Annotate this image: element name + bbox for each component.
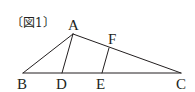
geometry-figure: 〔図1〕 A F B D E C: [0, 0, 195, 92]
figure-caption: 〔図1〕: [11, 13, 55, 30]
label-C: C: [176, 76, 186, 92]
segment-AB: [23, 34, 73, 73]
segment-EF: [102, 48, 109, 73]
segment-AC: [73, 34, 181, 73]
label-A: A: [68, 17, 79, 33]
segment-AD: [62, 34, 73, 73]
label-D: D: [56, 76, 67, 92]
label-B: B: [17, 76, 27, 92]
label-F: F: [108, 31, 116, 47]
label-E: E: [96, 76, 105, 92]
